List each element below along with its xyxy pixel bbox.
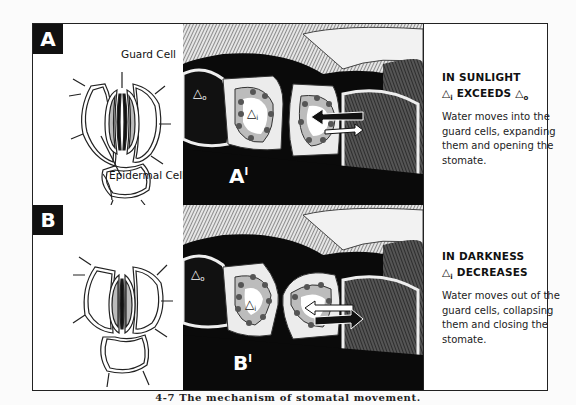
panel-b: B xyxy=(33,205,547,390)
panel-a-cross-section: △o △i AI xyxy=(183,24,423,205)
guard-cell-label: Guard Cell xyxy=(121,48,176,60)
relation-sunlight: △i EXCEEDS △o xyxy=(442,86,529,106)
description-sunlight: Water moves into the guard cells, expand… xyxy=(442,110,562,168)
panel-a: A xyxy=(33,24,547,206)
delta-outside-a: △o xyxy=(193,86,207,102)
closed-stomata-drawing xyxy=(33,205,183,390)
detail-label-a: AI xyxy=(229,164,248,188)
figure-frame: A xyxy=(32,23,548,391)
panel-b-cross-section: △o △i BI xyxy=(183,205,423,390)
panel-a-surface-view: A xyxy=(33,24,183,205)
relation-darkness: △i DECREASES xyxy=(442,265,528,285)
delta-outside-b: △o xyxy=(191,267,205,283)
condition-sunlight: IN SUNLIGHT xyxy=(442,70,521,85)
description-darkness: Water moves out of the guard cells, coll… xyxy=(442,289,562,347)
open-stomata-cross-section xyxy=(183,24,423,205)
closed-stomata-cross-section xyxy=(183,205,423,390)
panel-b-surface-view: B xyxy=(33,205,183,390)
epidermal-cell-label: Epidermal Cell xyxy=(109,169,185,181)
panel-a-explanation: IN SUNLIGHT △i EXCEEDS △o Water moves in… xyxy=(423,24,547,205)
delta-inside-a: △i xyxy=(247,106,258,122)
condition-darkness: IN DARKNESS xyxy=(442,249,524,264)
figure-caption: 4-7 The mechanism of stomatal movement. xyxy=(0,392,576,403)
detail-label-b: BI xyxy=(233,351,252,375)
panel-b-explanation: IN DARKNESS △i DECREASES Water moves out… xyxy=(423,205,547,390)
delta-inside-b: △i xyxy=(245,297,256,313)
